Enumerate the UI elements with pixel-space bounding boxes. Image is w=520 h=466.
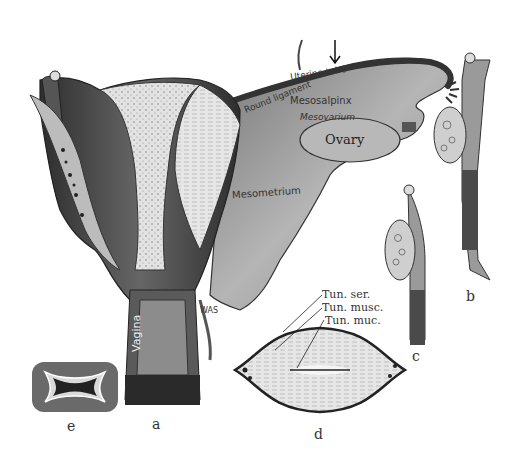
ovarian-ligament (402, 122, 416, 132)
panel-label-d: d (314, 426, 323, 442)
vaginal-canal (137, 300, 188, 375)
label-mesosalpinx: Mesosalpinx (290, 95, 352, 106)
panel-label-c: c (412, 348, 420, 364)
anatomical-figure: Round ligament Uterine tube Mesosalpinx … (0, 0, 520, 466)
label-was: WAS (200, 306, 218, 315)
label-tunica-mucosa: Tun. muc. (325, 314, 381, 327)
panel-label-a: a (152, 416, 160, 432)
label-vagina: Vagina (130, 315, 143, 352)
label-tunica-serosa: Tun. ser. (322, 288, 370, 301)
label-mesovarium: Mesovarium (300, 112, 355, 122)
panel-e-section (32, 362, 118, 412)
vagina-base (125, 375, 200, 405)
label-tunica-muscularis: Tun. musc. (322, 301, 383, 314)
round-ligament-stub (298, 40, 302, 70)
fimbriae (446, 82, 459, 103)
label-ovary: Ovary (325, 132, 364, 147)
uterus-illustration (0, 0, 520, 466)
panel-label-b: b (466, 288, 475, 304)
left-tube-lumen (50, 71, 60, 81)
arrow-pointer-icon (330, 40, 340, 63)
panel-c-section (385, 185, 425, 345)
panel-label-e: e (67, 418, 75, 434)
